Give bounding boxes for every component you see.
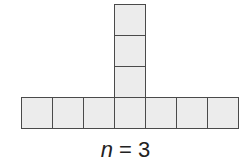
row-square <box>145 97 177 129</box>
row-square <box>21 97 53 129</box>
row-square <box>83 97 115 129</box>
column-square <box>114 35 146 67</box>
caption-operator: = <box>113 137 138 162</box>
row-square <box>52 97 84 129</box>
column-square <box>114 66 146 98</box>
row-square <box>114 97 146 129</box>
tile-pattern-figure: n = 3 <box>0 0 251 167</box>
figure-caption: n = 3 <box>0 138 251 162</box>
caption-value: 3 <box>138 137 150 162</box>
caption-variable: n <box>101 137 113 162</box>
row-square <box>207 97 239 129</box>
row-square <box>176 97 208 129</box>
column-square <box>114 4 146 36</box>
